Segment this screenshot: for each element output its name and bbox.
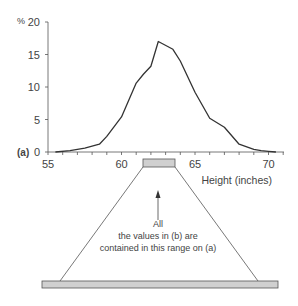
funnel-left-line <box>60 167 143 281</box>
panel-label: (a) <box>17 147 29 158</box>
annotation-line-2: the values in (b) are <box>118 231 198 241</box>
y-ticks <box>45 22 48 152</box>
distribution-line <box>55 42 276 153</box>
x-axis-title: Height (inches) <box>201 174 272 186</box>
annotation-line-3: contained in this range on (a) <box>100 243 217 253</box>
y-tick-label: 0 <box>34 146 40 158</box>
x-tick-label: 60 <box>115 158 127 170</box>
x-ticks <box>48 152 283 155</box>
y-tick-label: 10 <box>28 81 40 93</box>
y-unit-label: % <box>17 16 25 26</box>
annotation-line-1: All <box>153 219 163 229</box>
arrow-up-icon <box>156 190 161 198</box>
y-tick-label: 5 <box>34 114 40 126</box>
height-distribution-chart: 0 5 10 15 20 % (a) 55 60 65 70 Height (i… <box>0 0 298 306</box>
x-tick-label: 65 <box>189 158 201 170</box>
x-tick-label: 55 <box>42 158 54 170</box>
y-tick-label: 20 <box>28 16 40 28</box>
highlight-range-box <box>143 159 175 167</box>
x-tick-label: 70 <box>262 158 274 170</box>
range-bar-b <box>42 281 278 288</box>
y-tick-label: 15 <box>28 49 40 61</box>
